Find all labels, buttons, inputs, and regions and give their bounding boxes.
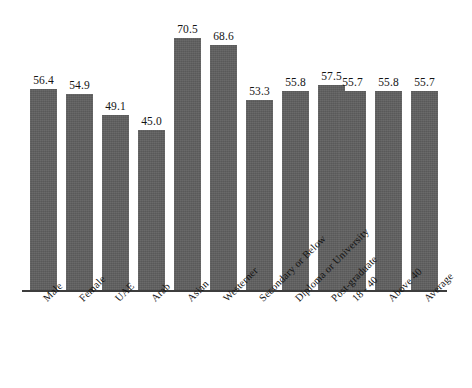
bar-value-label: 54.9 xyxy=(69,79,90,91)
bar xyxy=(210,45,237,291)
bar-value-label: 55.7 xyxy=(414,76,435,88)
bar xyxy=(102,115,129,291)
bar-value-label: 55.8 xyxy=(285,76,306,88)
plot-area: 56.4 54.9 49.1 45.0 70.5 68.6 53.3 xyxy=(0,0,472,388)
bar xyxy=(66,94,93,291)
bar-value-label: 45.0 xyxy=(141,115,162,127)
bar-value-label: 49.1 xyxy=(105,100,126,112)
bar-value-label: 56.4 xyxy=(33,74,54,86)
bar-value-label: 53.3 xyxy=(249,85,270,97)
bar-chart: 56.4 54.9 49.1 45.0 70.5 68.6 53.3 xyxy=(0,0,472,388)
bar xyxy=(411,91,438,291)
bar-value-label: 70.5 xyxy=(177,23,198,35)
bar-value-label: 57.5 xyxy=(321,70,342,82)
bar xyxy=(246,100,273,291)
bar xyxy=(138,130,165,291)
bar-value-label: 68.6 xyxy=(213,30,234,42)
bar-value-label: 55.7 xyxy=(342,76,363,88)
bar xyxy=(174,38,201,291)
bar xyxy=(30,89,57,291)
bar-value-label: 55.8 xyxy=(378,76,399,88)
